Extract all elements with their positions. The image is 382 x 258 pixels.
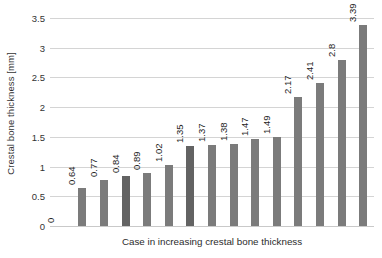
bar-chart: Crestal bone thickness [mm] 00.511.522.5… [0, 0, 382, 258]
bar [165, 165, 173, 226]
bar-value-label: 1.02 [153, 144, 164, 163]
bar-value-label: 1.38 [218, 123, 229, 142]
bar-group: 1.02 [158, 18, 180, 226]
bar-value-label: 1.37 [196, 123, 207, 142]
y-axis-tick-label: 2.5 [32, 72, 45, 83]
bar-value-label: 1.47 [239, 117, 250, 136]
bar-group: 0.84 [115, 18, 137, 226]
bar-value-label: 0.89 [131, 152, 142, 171]
y-axis-tick-label: 2 [40, 102, 45, 113]
bar-group: 2.17 [288, 18, 310, 226]
bar-value-label: 2.17 [282, 76, 293, 95]
bar [316, 83, 324, 226]
bar-group: 3.39 [352, 18, 374, 226]
bar-value-label: 1.49 [261, 116, 272, 135]
y-axis-tick-label: 1 [40, 161, 45, 172]
bar-group: 0.77 [93, 18, 115, 226]
y-axis-title-label: Crestal bone thickness [mm] [5, 52, 16, 175]
y-axis-tick-label: 0.5 [32, 191, 45, 202]
bar-group: 2.8 [331, 18, 353, 226]
bar [294, 97, 302, 226]
y-axis-tick-label: 3 [40, 42, 45, 53]
bar [122, 176, 130, 226]
y-axis-title: Crestal bone thickness [mm] [0, 0, 20, 226]
bar [338, 60, 346, 226]
bar-group: 0.64 [72, 18, 94, 226]
gridline [50, 226, 374, 227]
y-axis-tick-labels: 00.511.522.533.5 [20, 0, 48, 226]
bar-value-label: 0.64 [66, 166, 77, 185]
bar-group: 0 [50, 18, 72, 226]
y-axis-tick-label: 1.5 [32, 131, 45, 142]
bar [208, 145, 216, 226]
bar-value-label: 0.77 [88, 159, 99, 178]
bar [143, 173, 151, 226]
y-axis-tick-label: 3.5 [32, 13, 45, 24]
plot-area: 00.640.770.840.891.021.351.371.381.471.4… [50, 18, 374, 226]
x-axis-title: Case in increasing crestal bone thicknes… [50, 236, 374, 247]
bar-value-label: 3.39 [347, 3, 358, 22]
bar [78, 188, 86, 226]
bar-value-label: 0 [45, 218, 56, 223]
bar-value-label: 1.35 [174, 124, 185, 143]
bar-value-label: 2.41 [304, 61, 315, 80]
bars-layer: 00.640.770.840.891.021.351.371.381.471.4… [50, 18, 374, 226]
bar-value-label: 0.84 [110, 155, 121, 174]
bar-group: 0.89 [136, 18, 158, 226]
bar-value-label: 2.8 [326, 43, 337, 56]
bar-group: 1.49 [266, 18, 288, 226]
bar [100, 180, 108, 226]
bar [186, 146, 194, 226]
bar [230, 144, 238, 226]
bar-group: 1.35 [180, 18, 202, 226]
bar [251, 139, 259, 226]
bar [359, 25, 367, 226]
bar [273, 137, 281, 226]
